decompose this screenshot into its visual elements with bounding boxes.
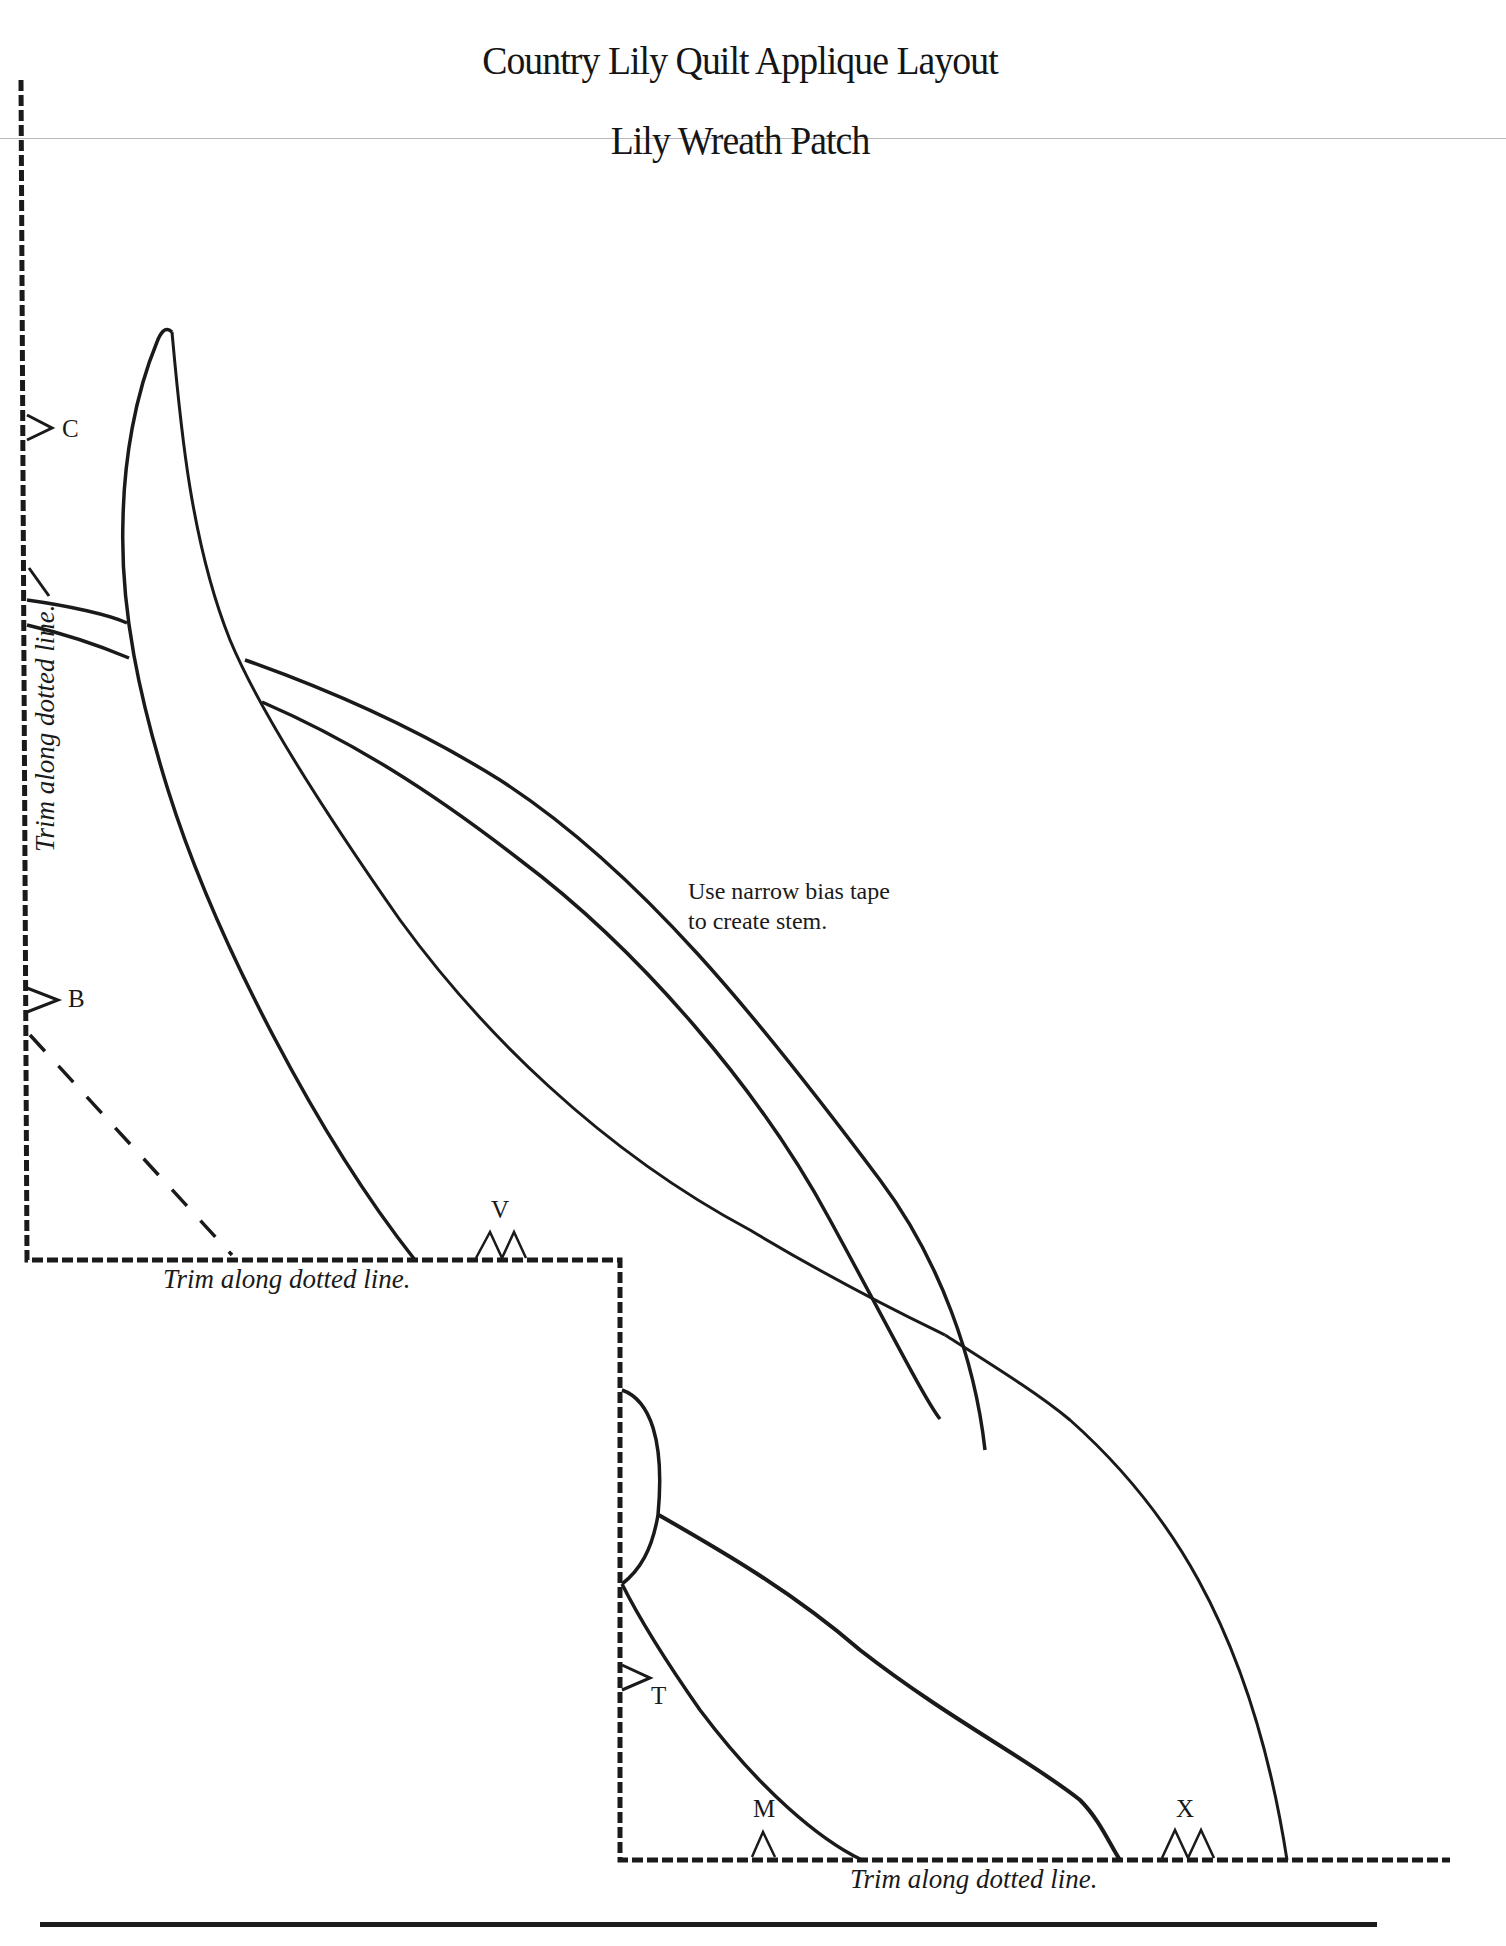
marker-b-triangle-icon (27, 988, 58, 1012)
stem-inner-curve (262, 702, 940, 1419)
marker-x-label: X (1176, 1795, 1194, 1823)
marker-m-peak-icon (752, 1832, 775, 1857)
trim-label-bottom: Trim along dotted line. (850, 1864, 1098, 1895)
note-line-2: to create stem. (688, 906, 890, 936)
leaf-lower-lower-edge (622, 1584, 862, 1860)
marker-m-label: M (753, 1795, 775, 1823)
marker-c-triangle-icon (27, 415, 52, 440)
applique-pattern-drawing (0, 0, 1506, 1946)
bottom-rule-divider (40, 1922, 1377, 1927)
bud-bulge (622, 1390, 660, 1584)
leaf-upper-shape (123, 329, 415, 1260)
trim-boundary-dotted-line (21, 80, 1450, 1860)
trim-label-middle: Trim along dotted line. (163, 1264, 411, 1295)
leaf-lower-outer-edge (945, 1335, 1287, 1860)
stem-instruction-note: Use narrow bias tape to create stem. (688, 876, 890, 936)
trim-label-left: Trim along dotted line. (30, 604, 61, 852)
marker-t-triangle-icon (622, 1665, 650, 1690)
stem-notch (29, 568, 49, 596)
marker-t-label: T (651, 1682, 666, 1710)
stem-outer-curve (245, 660, 985, 1450)
marker-v-double-peak-icon (476, 1232, 526, 1258)
leaf-upper-inner-edge (172, 332, 945, 1335)
placement-guide-dashed (30, 1035, 232, 1255)
leaf-lower-upper-edge (657, 1514, 1120, 1860)
marker-v-label: V (491, 1196, 509, 1224)
marker-x-double-peak-icon (1162, 1830, 1214, 1858)
marker-c-label: C (62, 415, 79, 443)
note-line-1: Use narrow bias tape (688, 876, 890, 906)
marker-b-label: B (68, 985, 85, 1013)
